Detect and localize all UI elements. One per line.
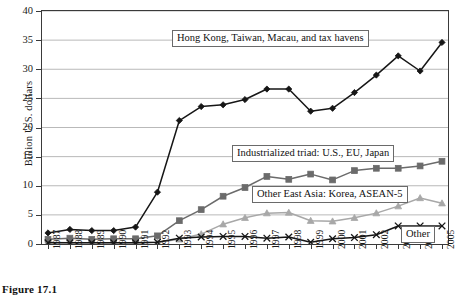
x-axis-tick-label: 1997: [271, 230, 281, 249]
x-axis-tick-label: 1989: [96, 230, 106, 249]
x-axis-tick: [289, 245, 290, 249]
y-axis-title: Billion U.S. dollars: [23, 49, 34, 199]
annotation-other-east-asia: Other East Asia: Korea, ASEAN-5: [252, 186, 408, 203]
x-axis-tick-label: 1990: [118, 230, 128, 249]
x-axis-tick: [201, 245, 202, 249]
y-axis-tick-label: 0: [5, 239, 33, 250]
x-axis-tick-label: 2002: [380, 230, 390, 249]
x-axis-tick-label: 1998: [293, 230, 303, 249]
x-axis-tick-label: 1994: [205, 230, 215, 249]
figure-container: Billion U.S. dollars 0510152025303540 19…: [0, 0, 460, 301]
x-axis-tick: [92, 245, 93, 249]
x-axis-tick: [223, 245, 224, 249]
x-axis-tick: [48, 245, 49, 249]
x-axis-tick: [179, 245, 180, 249]
x-axis-tick: [354, 245, 355, 249]
x-axis-tick-label: 2001: [358, 230, 368, 249]
x-axis-tick: [398, 245, 399, 249]
x-axis-tick: [70, 245, 71, 249]
x-axis-tick: [333, 245, 334, 249]
annotation-other: Other: [401, 226, 435, 243]
x-axis-tick-label: 2005: [446, 230, 456, 249]
annotation-hong-kong: Hong Kong, Taiwan, Macau, and tax havens: [172, 30, 369, 47]
y-axis-tick-label: 35: [5, 35, 33, 46]
x-axis-tick: [136, 245, 137, 249]
x-axis-tick-label: 1987: [52, 230, 62, 249]
x-axis-tick-label: 1993: [183, 230, 193, 249]
figure-caption: Figure 17.1: [2, 283, 57, 295]
x-axis-tick: [245, 245, 246, 249]
x-axis-tick-label: 1999: [315, 230, 325, 249]
x-axis-tick-label: 1991: [140, 230, 150, 249]
x-axis-tick-label: 1988: [74, 230, 84, 249]
x-axis-tick-label: 1992: [161, 230, 171, 249]
x-axis-tick: [420, 245, 421, 249]
x-axis-tick-label: 1995: [227, 230, 237, 249]
x-axis-tick: [114, 245, 115, 249]
x-axis-tick: [267, 245, 268, 249]
x-axis-tick-label: 1996: [249, 230, 259, 249]
annotation-industrialized-triad: Industrialized triad: U.S., EU, Japan: [232, 145, 394, 162]
x-axis-tick: [376, 245, 377, 249]
x-axis-tick: [157, 245, 158, 249]
y-axis-tick-label: 5: [5, 209, 33, 220]
x-axis-tick: [311, 245, 312, 249]
y-axis-tick-label: 40: [5, 6, 33, 17]
x-axis-tick: [442, 245, 443, 249]
x-axis-tick-label: 2000: [337, 230, 347, 249]
